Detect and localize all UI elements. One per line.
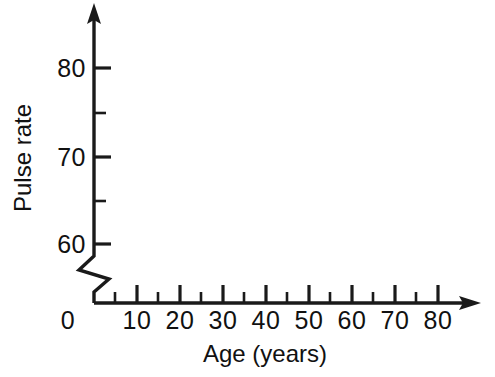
- x-tick-label-70: 70: [381, 306, 410, 334]
- x-axis-title: Age (years): [203, 340, 327, 367]
- y-axis-group: 80 70 60 Pulse rate: [9, 3, 111, 303]
- x-tick-label-60: 60: [338, 306, 367, 334]
- y-tick-label-60: 60: [57, 230, 86, 258]
- y-tick-label-80: 80: [57, 54, 86, 82]
- y-tick-label-70: 70: [57, 143, 86, 171]
- x-axis-group: 0 10 20 30 40 50 60 70 80 Age (years): [61, 285, 481, 367]
- x-tick-label-10: 10: [123, 306, 152, 334]
- x-tick-label-40: 40: [252, 306, 281, 334]
- x-tick-label-0: 0: [61, 306, 75, 334]
- x-tick-label-30: 30: [209, 306, 238, 334]
- chart-canvas: 80 70 60 Pulse rate: [0, 0, 495, 377]
- x-tick-label-80: 80: [424, 306, 453, 334]
- y-axis-title: Pulse rate: [9, 104, 36, 212]
- x-tick-label-50: 50: [295, 306, 324, 334]
- x-tick-label-20: 20: [166, 306, 195, 334]
- chart-figure: 80 70 60 Pulse rate: [0, 0, 495, 377]
